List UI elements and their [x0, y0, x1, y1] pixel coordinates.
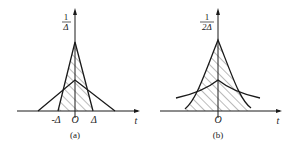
y-label-numerator-b: 1	[205, 12, 210, 22]
y-label-numerator-a: 1	[64, 12, 69, 22]
caption-b: (b)	[213, 130, 224, 140]
panel-a: 1 Δ -Δ O Δ t (a)	[17, 8, 140, 140]
x-axis-arrow-b	[276, 109, 282, 113]
y-label-denominator-b: 2Δ	[202, 22, 212, 32]
tick-label-neg-delta: -Δ	[51, 114, 60, 125]
tick-label-origin-b: O	[214, 114, 221, 125]
panel-b: 1 2Δ O t (b)	[160, 8, 282, 140]
x-axis-arrow-a	[134, 109, 140, 113]
tick-label-delta: Δ	[90, 114, 97, 125]
x-axis-label-a: t	[135, 115, 138, 126]
x-axis-label-b: t	[277, 115, 280, 126]
diagram-canvas: 1 Δ -Δ O Δ t (a) 1 2Δ O t (b)	[0, 0, 295, 150]
caption-a: (a)	[70, 130, 80, 140]
y-axis-arrow-a	[73, 8, 77, 15]
y-axis-arrow-b	[216, 8, 220, 15]
tick-label-origin-a: O	[71, 114, 78, 125]
y-label-denominator-a: Δ	[62, 22, 68, 32]
